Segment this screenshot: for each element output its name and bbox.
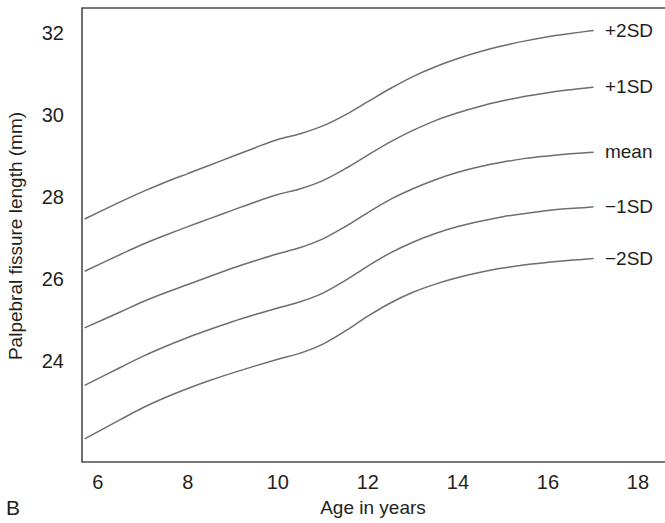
chart-figure: 2426283032 681012141618 +2SD+1SDmean−1SD… (0, 0, 665, 523)
y-axis-tick-labels: 2426283032 (42, 22, 64, 373)
curve-end-labels: +2SD+1SDmean−1SD−2SD (605, 20, 653, 269)
curve-2sd (85, 31, 593, 219)
x-tick-label: 14 (447, 471, 469, 493)
axis-frame-lines (82, 8, 665, 462)
x-tick-label: 16 (537, 471, 559, 493)
y-tick-label: 28 (42, 186, 64, 208)
panel-label: B (6, 496, 20, 519)
x-tick-label: 12 (357, 471, 379, 493)
curve-label-1sd: +1SD (605, 76, 653, 97)
y-tick-label: 32 (42, 22, 64, 44)
y-tick-label: 26 (42, 268, 64, 290)
curve-label-mean: mean (605, 141, 653, 162)
x-tick-label: 6 (92, 471, 103, 493)
plot-frame (82, 8, 665, 462)
curve-label-2sd: +2SD (605, 20, 653, 41)
x-tick-label: 10 (267, 471, 289, 493)
y-tick-label: 24 (42, 350, 64, 372)
x-axis-tick-labels: 681012141618 (92, 471, 649, 493)
palpebral-fissure-growth-chart: 2426283032 681012141618 +2SD+1SDmean−1SD… (0, 0, 665, 523)
curve-1sd (85, 87, 593, 271)
x-axis-title: Age in years (320, 497, 426, 518)
curve-mean (85, 152, 593, 327)
curve-label-2sd: −2SD (605, 248, 653, 269)
curve-1sd (85, 207, 593, 385)
curve-label-1sd: −1SD (605, 196, 653, 217)
data-curves (85, 31, 593, 439)
y-tick-label: 30 (42, 104, 64, 126)
x-tick-label: 18 (627, 471, 649, 493)
y-axis-title: Palpebral fissure length (mm) (5, 112, 26, 360)
x-tick-label: 8 (182, 471, 193, 493)
